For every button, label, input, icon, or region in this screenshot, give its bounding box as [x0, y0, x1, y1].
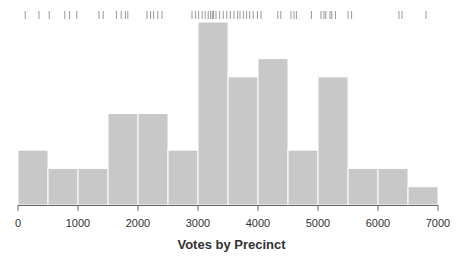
x-axis-label: Votes by Precinct [0, 237, 463, 252]
x-tick-label: 7000 [426, 217, 450, 229]
histogram-bar [348, 168, 378, 205]
histogram-bar [198, 22, 228, 205]
x-tick-label: 3000 [186, 217, 210, 229]
histogram-bars [18, 22, 438, 205]
histogram-bar [258, 59, 288, 205]
histogram-bar [318, 77, 348, 205]
x-tick-label: 2000 [126, 217, 150, 229]
histogram-bar [228, 77, 258, 205]
histogram-bar [108, 114, 138, 206]
histogram-bar [18, 150, 48, 205]
histogram-bar [408, 187, 438, 205]
histogram-bar [48, 168, 78, 205]
histogram-bar [168, 150, 198, 205]
x-tick-label: 4000 [246, 217, 270, 229]
x-tick-label: 1000 [66, 217, 90, 229]
rug-plot [25, 11, 426, 19]
histogram-bar [378, 168, 408, 205]
x-tick-label: 5000 [306, 217, 330, 229]
x-tick-label: 0 [15, 217, 21, 229]
x-tick-label: 6000 [366, 217, 390, 229]
x-axis: 01000200030004000500060007000 [15, 205, 450, 229]
histogram-bar [138, 114, 168, 206]
histogram-bar [78, 168, 108, 205]
histogram-chart: 01000200030004000500060007000 [0, 0, 463, 265]
histogram-bar [288, 150, 318, 205]
